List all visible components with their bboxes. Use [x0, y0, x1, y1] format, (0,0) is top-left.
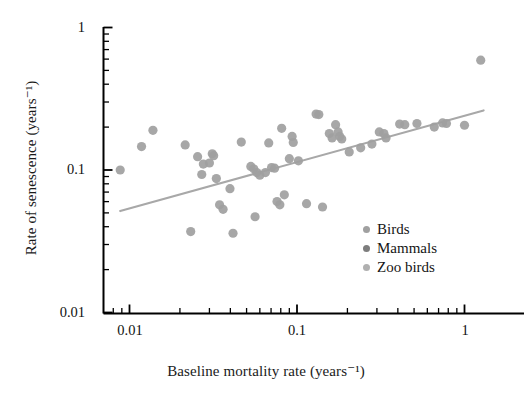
legend-marker-zoo-birds	[363, 264, 370, 271]
series-birds	[116, 56, 486, 238]
data-point	[302, 199, 311, 208]
data-point	[275, 200, 284, 209]
y-tick-label-1: 1	[40, 19, 85, 36]
y-tick-label-0point01: 0.01	[16, 304, 85, 321]
legend-item-mammals: Mammals	[363, 240, 437, 257]
data-point	[476, 56, 485, 65]
legend-label-mammals: Mammals	[377, 240, 437, 257]
data-point	[137, 142, 146, 151]
data-point	[148, 126, 157, 135]
plot-canvas	[0, 0, 532, 400]
data-point	[181, 140, 190, 149]
data-point	[212, 174, 221, 183]
data-point	[277, 124, 286, 133]
data-point	[294, 156, 303, 165]
data-point	[237, 137, 246, 146]
data-point	[285, 154, 294, 163]
data-point	[209, 151, 218, 160]
data-point	[367, 139, 376, 148]
legend-label-zoo-birds: Zoo birds	[377, 259, 435, 276]
data-point	[442, 119, 451, 128]
data-point	[228, 229, 237, 238]
data-point	[381, 133, 390, 142]
data-point	[225, 184, 234, 193]
data-point	[314, 110, 323, 119]
senescence-scatter-figure: Rate of senescence (years⁻¹) Baseline mo…	[0, 0, 532, 400]
x-tick-label-0point1: 0.1	[266, 322, 328, 339]
data-point	[218, 205, 227, 214]
data-point	[356, 143, 365, 152]
data-point	[264, 138, 273, 147]
data-point	[280, 190, 289, 199]
legend-item-birds: Birds	[363, 221, 410, 238]
data-point	[270, 164, 279, 173]
data-point	[460, 121, 469, 130]
data-point	[430, 123, 439, 132]
data-point	[337, 134, 346, 143]
x-tick-label-0point01: 0.01	[94, 322, 166, 339]
x-axis-label: Baseline mortality rate (years⁻¹)	[0, 362, 532, 380]
x-tick-label-1: 1	[444, 322, 486, 339]
data-point	[193, 152, 202, 161]
data-point	[197, 170, 206, 179]
data-point	[186, 227, 195, 236]
legend-item-zoo-birds: Zoo birds	[363, 259, 435, 276]
data-point	[345, 147, 354, 156]
data-point	[116, 165, 125, 174]
data-point	[400, 120, 409, 129]
data-point	[289, 138, 298, 147]
legend-marker-mammals	[363, 245, 370, 252]
legend-marker-birds	[363, 226, 370, 233]
data-point	[250, 212, 259, 221]
data-point	[318, 202, 327, 211]
legend-label-birds: Birds	[377, 221, 410, 238]
data-point	[412, 119, 421, 128]
y-tick-label-0point1: 0.1	[28, 161, 85, 178]
